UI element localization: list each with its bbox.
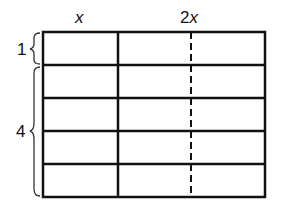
row-label-4: 4 [16,123,25,140]
row-label-1: 1 [17,41,26,58]
brace-rows-4 [30,67,40,196]
column-label-2x-variable: x [189,8,198,27]
area-model-diagram: x 2x 1 4 [0,0,282,218]
brace-row-1 [30,33,40,64]
row-dividers [43,65,265,164]
column-label-x: x [75,9,84,26]
column-label-2x: 2x [180,9,198,26]
grid-svg [0,0,282,218]
grid-outline [43,32,265,197]
